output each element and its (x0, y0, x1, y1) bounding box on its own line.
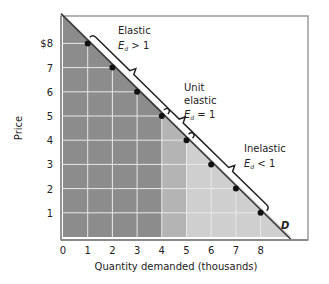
y-tick-label: $8 (40, 38, 53, 49)
inelastic-label: Inelastic (244, 143, 286, 154)
x-tick-label: 8 (257, 245, 263, 256)
unit-elastic-condition: Ed = 1 (184, 109, 215, 121)
y-tick-label: 4 (47, 135, 53, 146)
x-tick-label: 0 (60, 245, 66, 256)
x-tick-label: 2 (109, 245, 115, 256)
y-axis-title: Price (13, 116, 24, 140)
unit-elastic-label-1: Unit (184, 82, 204, 93)
y-tick-label: 3 (47, 159, 53, 170)
y-tick-label: 1 (47, 208, 53, 219)
data-point (233, 186, 239, 192)
x-tick-label: 3 (134, 245, 140, 256)
elasticity-chart: 012345678 1234567$8 Quantity demanded (t… (0, 0, 329, 284)
y-tick-label: 5 (47, 111, 53, 122)
x-tick-label: 6 (208, 245, 214, 256)
data-point (134, 89, 140, 95)
x-tick-label: 4 (159, 245, 165, 256)
data-point (159, 113, 165, 119)
unit-elastic-label-2: elastic (184, 95, 216, 106)
data-point (208, 161, 214, 167)
y-tick-label: 7 (47, 63, 53, 74)
x-tick-label: 7 (233, 245, 239, 256)
data-point (85, 40, 91, 46)
data-point (184, 137, 190, 143)
elastic-label: Elastic (118, 25, 151, 36)
x-axis-title: Quantity demanded (thousands) (95, 261, 258, 272)
data-point (258, 210, 264, 216)
x-tick-labels: 012345678 (60, 245, 264, 256)
demand-curve-label: D (281, 220, 289, 231)
x-tick-label: 1 (85, 245, 91, 256)
elastic-condition: Ed > 1 (118, 40, 149, 52)
y-tick-label: 6 (47, 87, 53, 98)
data-point (109, 65, 115, 71)
y-tick-label: 2 (47, 184, 53, 195)
y-tick-labels: 1234567$8 (40, 38, 53, 218)
inelastic-condition: Ed < 1 (244, 158, 275, 170)
x-tick-label: 5 (183, 245, 189, 256)
